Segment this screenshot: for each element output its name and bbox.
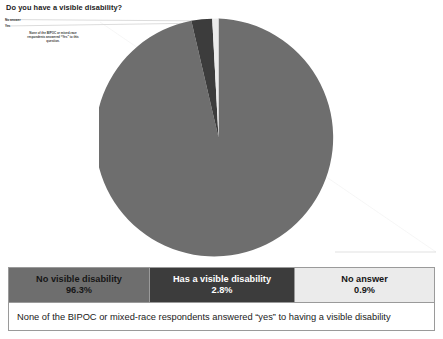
legend-row: No visible disability 96.3% Has a visibl… — [9, 268, 434, 303]
callout-label-yes: Yes — [5, 25, 10, 28]
legend-cell-no-answer[interactable]: No answer 0.9% — [295, 268, 434, 302]
legend-cell-no-visible-disability[interactable]: No visible disability 96.3% — [9, 268, 150, 302]
legend-cell-has-visible-disability[interactable]: Has a visible disability 2.8% — [150, 268, 295, 302]
callout-label-no-answer: No answer — [5, 19, 21, 22]
callout-note: None of the BIPOC or mixed-race responde… — [22, 31, 84, 43]
legend-value: 96.3% — [66, 285, 92, 297]
legend-value: 0.9% — [354, 285, 375, 297]
pie-chart — [99, 18, 338, 258]
legend-table: No visible disability 96.3% Has a visibl… — [8, 267, 435, 331]
legend-label: No answer — [341, 274, 387, 286]
legend-label: Has a visible disability — [173, 274, 271, 286]
page-title: Do you have a visible disability? — [6, 3, 122, 12]
legend-value: 2.8% — [212, 285, 233, 297]
legend-label: No visible disability — [36, 274, 122, 286]
legend-caption-row: None of the BIPOC or mixed-race responde… — [9, 303, 434, 330]
pie-chart-svg — [99, 18, 338, 258]
legend-caption: None of the BIPOC or mixed-race responde… — [17, 312, 391, 322]
